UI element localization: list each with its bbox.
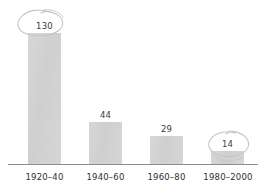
bar-1980-2000[interactable] [211,151,244,165]
bar-1940-60[interactable] [89,122,122,165]
value-label-1960-80: 29 [150,124,183,134]
bar-fill [211,151,244,165]
value-label-1980-2000: 14 [211,139,244,149]
category-label-1940-60: 1940–60 [75,172,136,182]
category-label-1960-80: 1960–80 [136,172,197,182]
category-axis-line [8,164,258,165]
value-label-1920-40: 130 [28,21,61,31]
bar-fill [89,122,122,165]
category-label-1920-40: 1920–40 [14,172,75,182]
bar-1920-40[interactable] [28,33,61,165]
bar-fill [28,33,61,165]
category-label-1980-2000: 1980–2000 [195,172,261,182]
bar-1960-80[interactable] [150,136,183,165]
bar-chart: 130 44 29 14 1920–40 1940–60 1960–80 198… [0,0,266,190]
bar-fill [150,136,183,165]
value-label-1940-60: 44 [89,110,122,120]
